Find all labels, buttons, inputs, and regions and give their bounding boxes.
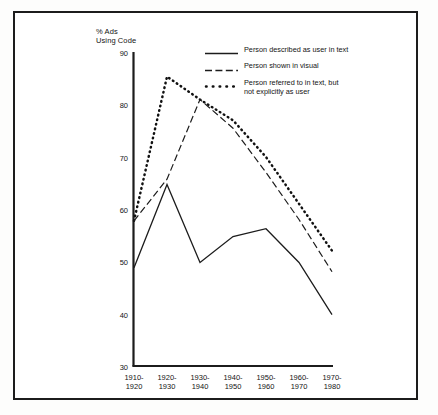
legend-swatch-dashed-line [204,61,244,71]
y-tick-label-40: 40 [108,311,128,320]
chart-legend: Person described as user in text Person … [204,44,394,102]
x-tick-line2: 1950 [225,382,242,391]
x-tick-line1: 1910- [124,373,143,382]
legend-swatch-dotted-line [204,77,244,87]
legend-item-shown-in-visual: Person shown in visual [204,61,394,72]
y-axis-title: % Ads Using Code [96,27,136,45]
legend-item-described-as-user: Person described as user in text [204,44,394,55]
x-tick-label-1970-1980: 1970-1980 [314,373,350,392]
x-tick-line2: 1940 [192,382,209,391]
y-tick-label-70: 70 [108,154,128,163]
legend-label-described-as-user: Person described as user in text [244,44,348,54]
y-tick-label-50: 50 [108,258,128,267]
x-tick-line2: 1970 [291,382,308,391]
y-axis-title-line1: % Ads [96,27,118,36]
series-line-described-as-user [134,184,332,314]
legend-label-shown-in-visual: Person shown in visual [244,61,319,71]
x-tick-line2: 1960 [258,382,275,391]
x-tick-label-1910-1920: 1910-1920 [116,373,152,392]
y-tick-label-80: 80 [108,101,128,110]
x-tick-line1: 1920- [157,373,176,382]
y-axis-title-line2: Using Code [96,36,136,45]
x-tick-line1: 1930- [190,373,209,382]
x-tick-label-1950-1960: 1950-1960 [248,373,284,392]
legend-item-referred-in-text: Person referred to in text, but not expl… [204,77,394,96]
x-tick-line2: 1980 [324,382,341,391]
legend-label-referred-in-text: Person referred to in text, but not expl… [244,77,339,96]
y-tick-label-30: 30 [108,363,128,372]
x-tick-label-1930-1940: 1930-1940 [182,373,218,392]
x-tick-label-1940-1950: 1940-1950 [215,373,251,392]
x-tick-label-1960-1970: 1960-1970 [281,373,317,392]
x-tick-line1: 1940- [223,373,242,382]
x-tick-line2: 1930 [159,382,176,391]
y-tick-label-90: 90 [108,49,128,58]
x-tick-line2: 1920 [126,382,143,391]
legend-swatch-solid-line [204,44,244,54]
series-line-shown-in-visual [134,100,332,272]
y-tick-label-60: 60 [108,206,128,215]
x-tick-line1: 1950- [256,373,275,382]
x-tick-label-1920-1930: 1920-1930 [149,373,185,392]
figure-container: % Ads Using Code 90 80 70 60 50 40 30 19… [0,0,438,415]
x-tick-line1: 1960- [289,373,308,382]
x-tick-line1: 1970- [322,373,341,382]
